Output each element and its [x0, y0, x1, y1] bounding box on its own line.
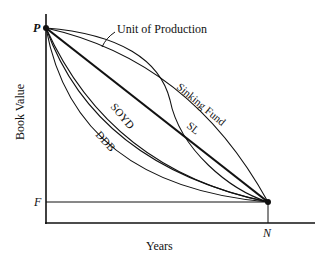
unit-of-production-label: Unit of Production [117, 22, 207, 36]
depreciation-diagram: P F N Years Book Value Unit of Productio… [0, 0, 330, 261]
f-label: F [33, 195, 42, 209]
y-axis-label: Book Value [13, 84, 27, 140]
x-axis-label: Years [146, 239, 173, 253]
sl-label: SL [185, 119, 203, 137]
n-label: N [262, 226, 272, 240]
start-point-marker [43, 25, 49, 31]
straight-line [46, 28, 268, 202]
end-point-marker [265, 199, 271, 205]
p-label: P [33, 21, 41, 35]
unit-of-production-leader [102, 32, 115, 47]
sinking-fund-label: Sinking Fund [175, 80, 229, 128]
ddb-label: DDB [94, 128, 118, 153]
soyd-label: SOYD [108, 101, 136, 132]
